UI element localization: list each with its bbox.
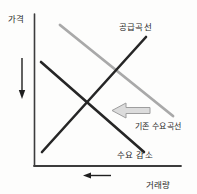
demand-decrease-label: 수요 감소 xyxy=(117,148,153,160)
supply-curve-label: 공급곡선 xyxy=(119,20,152,32)
original-demand-curve-label: 기존 수요곡선 xyxy=(135,120,181,131)
supply-demand-diagram: 가격 공급곡선 기존 수요곡선 수요 감소 거래량 xyxy=(0,0,197,194)
arrow-down-icon xyxy=(19,58,25,99)
x-axis-label: 거래량 xyxy=(146,178,171,190)
arrow-left-icon xyxy=(83,172,111,178)
supply-curve-line xyxy=(42,37,146,152)
block-arrow-left-icon xyxy=(112,103,150,118)
diagram-canvas xyxy=(0,0,197,194)
y-axis-label: 가격 xyxy=(8,12,24,24)
